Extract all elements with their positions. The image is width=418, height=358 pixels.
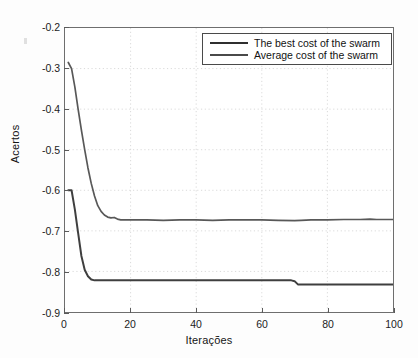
- x-tick-label: 40: [190, 318, 202, 330]
- y-tick-label: -0.9: [42, 307, 60, 319]
- y-tick-label: -0.3: [42, 62, 60, 74]
- y-tick-mark: [64, 109, 69, 110]
- y-tick-mark: [64, 272, 69, 273]
- legend-label-average-cost: Average cost of the swarm: [251, 49, 378, 61]
- x-tick-label: 20: [124, 318, 136, 330]
- legend-item-average-cost: Average cost of the swarm: [207, 49, 386, 61]
- data-series-layer: [65, 28, 393, 312]
- legend-label-best-cost: The best cost of the swarm: [251, 37, 380, 49]
- y-tick-label: -0.2: [42, 21, 60, 33]
- figure-chart: Acertos -0.2-0.3-0.4-0.5-0.6-0.7-0.8-0.9…: [0, 0, 418, 358]
- x-axis-title: Iterações: [0, 334, 418, 346]
- y-tick-label: -0.5: [42, 144, 60, 156]
- y-axis-title: Acertos: [9, 125, 21, 164]
- y-tick-mark: [64, 27, 69, 28]
- plot-area: [64, 27, 394, 313]
- y-tick-mark: [64, 150, 69, 151]
- legend-box: The best cost of the swarm Average cost …: [202, 33, 392, 65]
- x-tick-mark: [64, 308, 65, 313]
- y-tick-label: -0.4: [42, 103, 60, 115]
- legend-line-swatch-best-cost: [207, 37, 251, 49]
- legend-line-swatch-average-cost: [207, 49, 251, 61]
- y-tick-mark: [64, 190, 69, 191]
- y-tick-mark: [64, 231, 69, 232]
- x-tick-label: 80: [322, 318, 334, 330]
- legend-item-best-cost: The best cost of the swarm: [207, 37, 386, 49]
- x-tick-label: 0: [61, 318, 67, 330]
- x-tick-label: 60: [256, 318, 268, 330]
- x-tick-mark: [328, 308, 329, 313]
- y-tick-mark: [64, 313, 69, 314]
- x-tick-mark: [130, 308, 131, 313]
- x-tick-label: 100: [385, 318, 403, 330]
- y-tick-label: -0.8: [42, 266, 60, 278]
- y-tick-label: -0.7: [42, 225, 60, 237]
- scan-speckle: [24, 38, 27, 44]
- x-tick-mark: [196, 308, 197, 313]
- x-tick-mark: [394, 308, 395, 313]
- x-tick-mark: [262, 308, 263, 313]
- y-tick-label: -0.6: [42, 184, 60, 196]
- y-tick-mark: [64, 68, 69, 69]
